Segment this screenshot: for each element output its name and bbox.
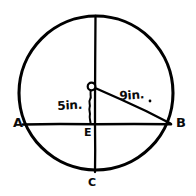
point-label-e: E — [84, 127, 92, 138]
geometry-diagram: A B E C 5in. 9in. — [0, 0, 196, 196]
point-label-b: B — [176, 116, 186, 129]
vertical-diameter-line — [95, 16, 96, 172]
diagram-canvas — [0, 0, 196, 196]
center-point-marker — [88, 83, 96, 91]
point-label-c: C — [88, 177, 96, 188]
brace-5in — [89, 90, 91, 124]
measure-label-9in: 9in. — [119, 88, 145, 102]
chord-ab-line — [23, 124, 171, 125]
point-label-a: A — [13, 116, 23, 129]
stray-pencil-mark — [149, 100, 152, 103]
measure-label-5in: 5in. — [57, 99, 82, 112]
